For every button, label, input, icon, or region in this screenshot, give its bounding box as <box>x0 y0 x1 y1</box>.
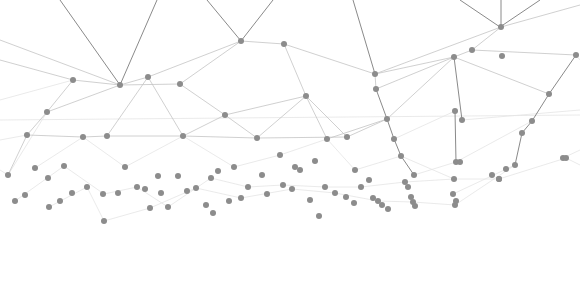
network-node <box>208 175 214 181</box>
connection-line <box>248 185 283 187</box>
network-node <box>145 74 151 80</box>
network-node <box>165 204 171 210</box>
network-node <box>259 172 265 178</box>
network-node <box>22 192 28 198</box>
network-node <box>452 108 458 114</box>
connection-line <box>292 189 335 193</box>
connection-line <box>327 139 355 170</box>
connection-line <box>455 111 456 162</box>
network-node <box>489 172 495 178</box>
network-node <box>184 188 190 194</box>
connection-line <box>413 202 455 205</box>
network-node <box>529 118 535 124</box>
network-node <box>498 24 504 30</box>
network-node <box>312 158 318 164</box>
network-node <box>358 184 364 190</box>
connection-line <box>207 0 241 41</box>
connection-line <box>353 0 375 74</box>
connection-line <box>472 27 501 50</box>
connection-line <box>460 0 500 27</box>
connection-line <box>196 188 241 198</box>
connection-line <box>306 96 347 137</box>
connection-line <box>241 0 273 41</box>
connection-line <box>137 187 168 207</box>
connection-line <box>241 41 284 44</box>
connection-line <box>0 135 27 140</box>
network-plexus-graphic <box>0 0 580 299</box>
connection-line <box>107 77 148 136</box>
network-node <box>379 202 385 208</box>
network-node <box>316 213 322 219</box>
connection-line <box>376 57 454 89</box>
connection-line <box>515 133 522 165</box>
network-node <box>452 202 458 208</box>
network-node <box>370 195 376 201</box>
network-node <box>231 164 237 170</box>
network-node <box>24 132 30 138</box>
connection-line <box>148 41 241 77</box>
network-node <box>499 53 505 59</box>
network-node <box>69 190 75 196</box>
network-node <box>155 173 161 179</box>
connection-line <box>225 96 306 115</box>
network-node <box>193 185 199 191</box>
network-node <box>46 204 52 210</box>
connection-line <box>0 40 120 85</box>
connection-line <box>347 119 387 137</box>
network-node <box>12 198 18 204</box>
network-node <box>451 54 457 60</box>
connection-line <box>532 94 549 121</box>
connection-line <box>60 0 120 85</box>
network-node <box>84 184 90 190</box>
network-node <box>450 191 456 197</box>
connection-line <box>35 137 83 168</box>
network-node <box>385 206 391 212</box>
connection-line <box>8 135 27 175</box>
connection-line <box>387 119 394 139</box>
network-node <box>254 135 260 141</box>
connection-line <box>280 139 327 155</box>
connection-line <box>183 136 257 138</box>
connection-line <box>361 182 405 187</box>
network-node <box>177 81 183 87</box>
connection-line <box>0 80 73 100</box>
network-node <box>546 91 552 97</box>
connection-line <box>405 179 454 182</box>
connection-line <box>284 44 306 96</box>
network-node <box>122 164 128 170</box>
network-node <box>332 190 338 196</box>
connection-line <box>257 96 306 138</box>
connection-line <box>284 44 375 74</box>
connection-line <box>180 41 241 84</box>
connection-line <box>27 112 47 135</box>
network-node <box>402 179 408 185</box>
network-node <box>366 177 372 183</box>
connection-line <box>211 178 248 187</box>
network-node <box>115 190 121 196</box>
network-node <box>351 200 357 206</box>
network-node <box>277 152 283 158</box>
network-node <box>344 134 350 140</box>
network-node <box>180 133 186 139</box>
connection-line <box>327 119 387 139</box>
network-node <box>238 38 244 44</box>
connection-line <box>183 136 234 167</box>
connection-line <box>283 185 325 187</box>
connection-line <box>387 57 454 119</box>
network-node <box>80 134 86 140</box>
network-node <box>384 116 390 122</box>
connection-line <box>378 201 413 202</box>
network-node <box>158 190 164 196</box>
network-node <box>61 163 67 169</box>
network-node <box>215 168 221 174</box>
network-node <box>398 153 404 159</box>
network-node <box>573 52 579 58</box>
network-node <box>142 186 148 192</box>
network-node <box>451 176 457 182</box>
connection-line <box>83 137 125 167</box>
network-node <box>512 162 518 168</box>
network-node <box>372 71 378 77</box>
connection-line <box>27 135 83 137</box>
network-node <box>405 184 411 190</box>
connection-line <box>376 89 387 119</box>
